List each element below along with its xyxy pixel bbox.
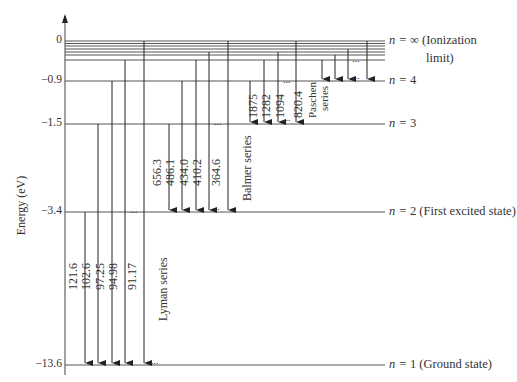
level-n: ∞: [410, 33, 419, 47]
axis-arrow-icon: [62, 14, 68, 23]
paschen-wavelength-3: 1094: [273, 94, 288, 118]
level-description: (First excited state): [419, 204, 516, 218]
level-description: (Ground state): [419, 357, 492, 371]
lyman-wavelength-5: 91.17: [125, 263, 140, 290]
level-n: 3: [410, 116, 416, 130]
paschen-wavelength-2: 1282: [259, 94, 274, 118]
paschen-upper-ellipsis: ...: [283, 74, 291, 85]
balmer-upper-ellipsis: ...: [214, 116, 222, 127]
ytick-0: 0: [28, 33, 62, 45]
level-prefix: n =: [389, 204, 407, 218]
balmer-series-label: Balmer series: [240, 135, 255, 201]
level-label-n-infinity: n = ∞ (Ionization: [389, 33, 477, 48]
lyman-upper-ellipsis: ...: [130, 204, 138, 215]
brackett-upper-ellipsis: ...: [352, 53, 360, 64]
level-label-n-4: n = 4: [389, 73, 416, 88]
balmer-ellipsis: ...: [212, 201, 220, 212]
level-prefix: n =: [389, 33, 407, 47]
level-n: 2: [410, 204, 416, 218]
y-axis-label: Energy (eV): [14, 176, 29, 235]
ytick-minus-1-5: −1.5: [28, 116, 62, 128]
level-n: 1: [410, 357, 416, 371]
energy-levels: [65, 41, 385, 365]
paschen-series-label-line2: series: [318, 86, 330, 111]
level-prefix: n =: [389, 116, 407, 130]
lyman-wavelength-4: 94.98: [106, 263, 121, 290]
level-label-n-infinity-line2: limit): [426, 51, 454, 66]
level-prefix: n =: [389, 73, 407, 87]
paschen-wavelength-4: 820.4: [291, 91, 306, 118]
balmer-wavelength-4: 410.2: [190, 159, 205, 186]
ytick-minus-0-9: −0.9: [28, 73, 62, 85]
lyman-wavelength-2: 102.6: [79, 263, 94, 290]
ytick-minus-3-4: −3.4: [28, 204, 62, 216]
y-axis: [62, 14, 68, 375]
level-description: (Ionization: [422, 33, 477, 47]
lyman-ellipsis: ...: [151, 355, 159, 366]
level-label-n-2: n = 2 (First excited state): [389, 204, 516, 219]
balmer-wavelength-5: 364.6: [209, 159, 224, 186]
lyman-series-label: Lyman series: [156, 257, 171, 321]
level-label-n-1: n = 1 (Ground state): [389, 357, 492, 372]
level-label-n-3: n = 3: [389, 116, 416, 131]
balmer-wavelength-2: 486.1: [163, 159, 178, 186]
paschen-series-label: Paschen: [306, 82, 318, 118]
level-n: 4: [410, 73, 416, 87]
ytick-minus-13-6: −13.6: [28, 357, 62, 369]
lyman-series-arrows: [85, 41, 144, 363]
level-prefix: n =: [389, 357, 407, 371]
brackett-ellipsis: ...: [352, 70, 360, 81]
